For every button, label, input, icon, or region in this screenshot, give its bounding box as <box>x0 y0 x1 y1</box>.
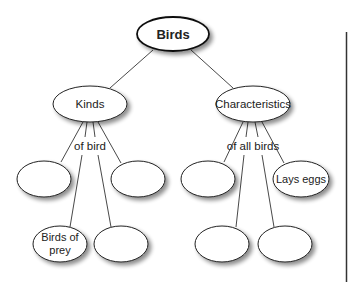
birds-of-prey-label-line1: Birds of <box>41 231 79 243</box>
branch-node-characteristics: Characteristics <box>215 86 291 122</box>
connector-kinds-child-3a <box>85 122 87 137</box>
connectors <box>61 50 284 227</box>
connector-kinds-child-4b <box>98 155 111 227</box>
branch-node-kinds: Kinds <box>53 86 127 122</box>
kinds-child-2-empty <box>111 161 165 197</box>
link-label-of-bird: of bird <box>74 140 106 152</box>
characteristics-label: Characteristics <box>215 98 291 110</box>
kinds-child-4-empty <box>94 226 148 262</box>
connector-birds-characteristics <box>191 50 233 88</box>
connector-kinds-child-3b <box>70 155 82 227</box>
connector-char-child-3b <box>236 155 244 227</box>
root-label: Birds <box>156 27 189 42</box>
birds-concept-map: Birds Kinds of bird Characteristics of a… <box>0 0 348 282</box>
connector-char-child-3a <box>246 122 248 137</box>
char-child-4-empty <box>258 226 312 262</box>
lays-eggs-label: Lays eggs <box>276 173 327 185</box>
kinds-child-birds-of-prey: Birds of prey <box>33 226 87 262</box>
connector-char-child-4a <box>255 122 258 137</box>
birds-of-prey-label-line2: prey <box>49 244 71 256</box>
connector-birds-kinds <box>110 50 153 88</box>
connector-kinds-child-4a <box>93 122 95 137</box>
kinds-child-1-empty <box>17 161 71 197</box>
kinds-label: Kinds <box>76 98 105 110</box>
root-node: Birds <box>137 17 209 51</box>
char-child-3-empty <box>195 226 249 262</box>
connector-char-child-4b <box>262 155 274 227</box>
char-child-1-empty <box>181 161 235 197</box>
link-label-of-all-birds: of all birds <box>227 140 280 152</box>
char-child-lays-eggs: Lays eggs <box>273 161 329 197</box>
